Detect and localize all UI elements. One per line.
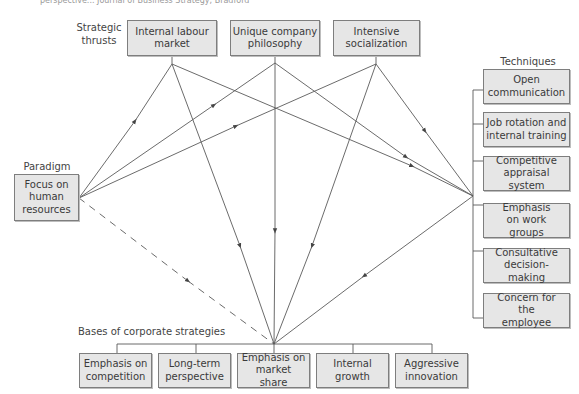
- base-aggressive-innovation: Aggressive innovation: [395, 353, 468, 388]
- strategic-thrusts-label: Strategic thrusts: [76, 22, 122, 47]
- thrust-intensive-socialization: Intensive socialization: [333, 20, 420, 56]
- base-long-term-perspective: Long-term perspective: [158, 353, 231, 388]
- technique-consultative-decision-making: Consultative decision-making: [483, 248, 570, 283]
- base-emphasis-on-market-share: Emphasis on market share: [237, 353, 310, 388]
- technique-concern-for-employee: Concern for the employee: [483, 293, 570, 328]
- technique-work-groups: Emphasis on work groups: [483, 203, 570, 238]
- technique-open-communication: Open communication: [483, 69, 570, 104]
- thrust-internal-labour-market: Internal labour market: [127, 20, 217, 56]
- paradigm-label: Paradigm: [14, 161, 80, 174]
- base-internal-growth: Internal growth: [316, 353, 389, 388]
- techniques-label: Techniques: [483, 56, 573, 69]
- thrust-unique-company-philosophy: Unique company philosophy: [230, 20, 320, 56]
- technique-competitive-appraisal: Competitive appraisal system: [483, 156, 570, 191]
- technique-job-rotation: Job rotation and internal training: [483, 112, 570, 147]
- bases-label: Bases of corporate strategies: [78, 326, 225, 339]
- paradigm-focus-on-human-resources: Focus on human resources: [14, 174, 79, 221]
- base-emphasis-on-competition: Emphasis on competition: [79, 353, 152, 388]
